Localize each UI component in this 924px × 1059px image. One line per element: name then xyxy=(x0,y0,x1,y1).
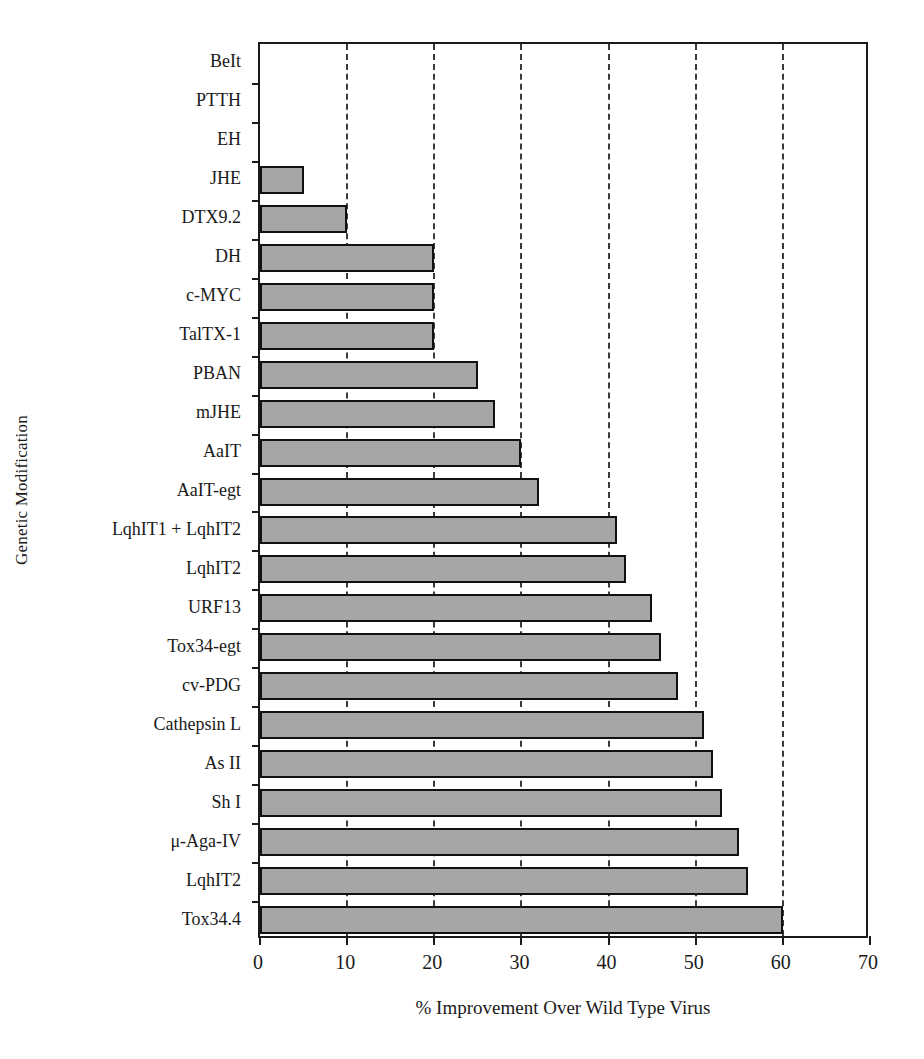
x-axis-title-text: % Improvement Over Wild Type Virus xyxy=(416,997,711,1018)
y-axis-category-label: c-MYC xyxy=(186,276,241,315)
y-axis-category-label: DTX9.2 xyxy=(182,198,242,237)
bar-chart-figure: Genetic Modification BeItPTTHEHJHEDTX9.2… xyxy=(0,0,924,1059)
bar[interactable] xyxy=(260,672,678,700)
bar[interactable] xyxy=(260,322,434,350)
x-axis-tick-label: 20 xyxy=(422,951,442,974)
y-axis-category-label: PTTH xyxy=(196,81,241,120)
bar-row[interactable] xyxy=(260,901,866,936)
bar[interactable] xyxy=(260,594,652,622)
bar-row[interactable] xyxy=(260,745,866,784)
x-axis-title: % Improvement Over Wild Type Virus xyxy=(258,997,868,1019)
x-tick-mark xyxy=(695,936,697,945)
bar[interactable] xyxy=(260,205,347,233)
y-tick-mark xyxy=(252,434,260,436)
bar-row[interactable] xyxy=(260,667,866,706)
bar-row[interactable] xyxy=(260,706,866,745)
y-axis-category-label: LqhIT2 xyxy=(186,860,241,899)
x-axis-tick-label: 60 xyxy=(771,951,791,974)
y-axis-category-label: LqhIT1 + LqhIT2 xyxy=(112,509,241,548)
bar[interactable] xyxy=(260,166,304,194)
x-axis-tick-label: 40 xyxy=(597,951,617,974)
bar[interactable] xyxy=(260,244,434,272)
y-tick-mark xyxy=(252,901,260,903)
y-tick-mark xyxy=(252,745,260,747)
y-tick-mark xyxy=(252,122,260,124)
bar-row[interactable] xyxy=(260,356,866,395)
y-tick-mark xyxy=(252,161,260,163)
bar[interactable] xyxy=(260,478,539,506)
bar[interactable] xyxy=(260,633,661,661)
y-axis-category-label: mJHE xyxy=(196,393,241,432)
x-axis-tick-label: 0 xyxy=(253,951,263,974)
plot-inner xyxy=(260,44,866,936)
bar[interactable] xyxy=(260,750,713,778)
y-axis-category-label: AaIT-egt xyxy=(177,471,241,510)
bar-row[interactable] xyxy=(260,434,866,473)
y-tick-mark xyxy=(252,317,260,319)
bar[interactable] xyxy=(260,439,521,467)
y-tick-mark xyxy=(252,200,260,202)
bar-row[interactable] xyxy=(260,200,866,239)
y-tick-mark xyxy=(252,706,260,708)
y-tick-mark xyxy=(252,83,260,85)
bar-row[interactable] xyxy=(260,278,866,317)
bar-row[interactable] xyxy=(260,511,866,550)
y-axis-category-label: Cathepsin L xyxy=(154,704,242,743)
bar[interactable] xyxy=(260,828,739,856)
x-tick-mark xyxy=(346,936,348,945)
x-axis-tick-labels: 010203040506070 xyxy=(258,951,868,981)
x-tick-mark xyxy=(782,936,784,945)
y-axis-category-label: AaIT xyxy=(203,432,241,471)
bar-row[interactable] xyxy=(260,239,866,278)
y-axis-category-label: Sh I xyxy=(211,782,241,821)
y-axis-category-label: As II xyxy=(205,743,242,782)
bar[interactable] xyxy=(260,867,748,895)
bar-row[interactable] xyxy=(260,550,866,589)
y-tick-mark xyxy=(252,667,260,669)
bar[interactable] xyxy=(260,906,783,934)
plot-area xyxy=(258,42,868,938)
bar[interactable] xyxy=(260,516,617,544)
bar[interactable] xyxy=(260,555,626,583)
bar-row[interactable] xyxy=(260,589,866,628)
bar-row[interactable] xyxy=(260,784,866,823)
x-axis-tick-label: 30 xyxy=(509,951,529,974)
bar-row[interactable] xyxy=(260,44,866,83)
y-axis-category-label: LqhIT2 xyxy=(186,548,241,587)
y-axis-category-label: Tox34.4 xyxy=(182,899,241,938)
y-tick-mark xyxy=(252,395,260,397)
y-axis-category-label: TalTX-1 xyxy=(179,315,241,354)
x-axis-tick-label: 50 xyxy=(684,951,704,974)
bar-row[interactable] xyxy=(260,473,866,512)
y-axis-category-label: EH xyxy=(217,120,241,159)
bar[interactable] xyxy=(260,789,722,817)
y-axis-category-label: Tox34-egt xyxy=(167,626,241,665)
y-axis-category-label: DH xyxy=(215,237,241,276)
bar[interactable] xyxy=(260,361,478,389)
bar-row[interactable] xyxy=(260,317,866,356)
y-tick-mark xyxy=(252,511,260,513)
x-tick-mark xyxy=(259,936,261,945)
y-tick-mark xyxy=(252,550,260,552)
y-axis-category-label: μ-Aga-IV xyxy=(170,821,241,860)
bar-row[interactable] xyxy=(260,862,866,901)
y-axis-category-label: BeIt xyxy=(210,42,241,81)
y-tick-mark xyxy=(252,589,260,591)
bar-row[interactable] xyxy=(260,823,866,862)
bar[interactable] xyxy=(260,283,434,311)
bar[interactable] xyxy=(260,400,495,428)
bar-row[interactable] xyxy=(260,161,866,200)
x-axis-tick-label: 10 xyxy=(335,951,355,974)
bar[interactable] xyxy=(260,711,704,739)
bar-row[interactable] xyxy=(260,83,866,122)
bar-row[interactable] xyxy=(260,395,866,434)
y-axis-tick-labels: BeItPTTHEHJHEDTX9.2DHc-MYCTalTX-1PBANmJH… xyxy=(44,42,251,938)
y-tick-mark xyxy=(252,239,260,241)
bar-row[interactable] xyxy=(260,628,866,667)
y-tick-mark xyxy=(252,278,260,280)
y-tick-mark xyxy=(252,473,260,475)
y-tick-mark xyxy=(252,823,260,825)
y-tick-mark xyxy=(252,628,260,630)
x-tick-mark xyxy=(869,936,871,945)
bar-row[interactable] xyxy=(260,122,866,161)
